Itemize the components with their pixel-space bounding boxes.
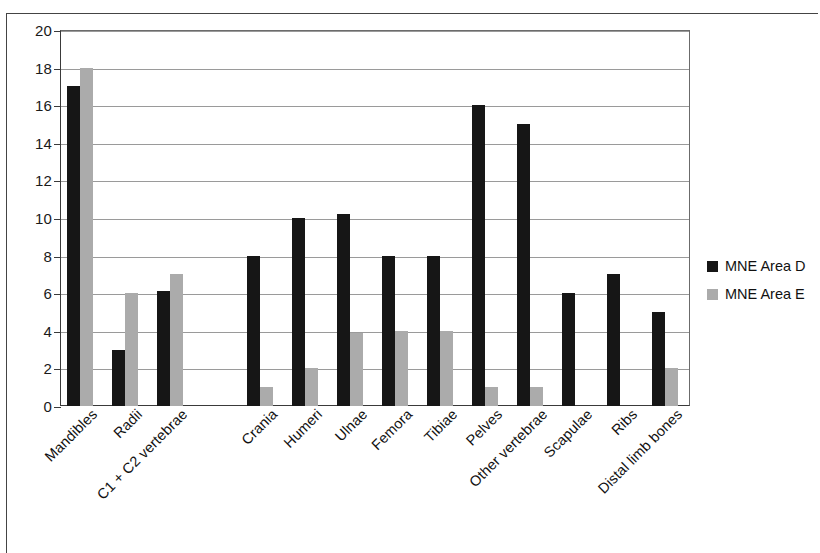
x-axis-label: Femora (368, 406, 415, 453)
x-axis-label: Mandibles (41, 406, 100, 465)
bar (652, 312, 665, 406)
x-axis-label: Distal limb bones (594, 406, 685, 497)
bar (80, 68, 93, 406)
bar-group (60, 30, 105, 406)
bar-group (240, 30, 285, 406)
bar (337, 214, 350, 406)
x-axis-label: Radii (110, 406, 145, 441)
bar-group (150, 30, 195, 406)
legend-item-mne-area-e: MNE Area E (707, 280, 820, 308)
x-axis-label: Scapulae (540, 406, 595, 461)
bar-group (195, 30, 240, 406)
bar-group (555, 30, 600, 406)
x-axis-label: Ribs (608, 406, 640, 438)
y-axis-tick-label: 0 (43, 398, 52, 415)
y-axis-tick-labels: 02468101214161820 (20, 30, 52, 406)
bar-group (600, 30, 645, 406)
y-axis-tick-label: 6 (43, 285, 52, 302)
bar (157, 291, 170, 406)
bars-layer (60, 30, 690, 406)
y-axis-tick-label: 2 (43, 360, 52, 377)
bar (472, 105, 485, 406)
x-axis-label: Pelves (462, 406, 505, 449)
x-axis-label: Tibiae (421, 406, 460, 445)
bar (67, 86, 80, 406)
bar (112, 350, 125, 406)
bar-group (330, 30, 375, 406)
bar (485, 387, 498, 406)
legend-label-mne-area-d: MNE Area D (725, 258, 806, 274)
bar (517, 124, 530, 406)
legend-item-mne-area-d: MNE Area D (707, 252, 820, 280)
bar (530, 387, 543, 406)
bar (125, 293, 138, 406)
bar (292, 218, 305, 406)
bar (350, 333, 363, 406)
bar (440, 331, 453, 406)
legend-label-mne-area-e: MNE Area E (725, 286, 805, 302)
bar-group (105, 30, 150, 406)
bar (665, 368, 678, 406)
chart-legend: MNE Area D MNE Area E (707, 252, 820, 308)
y-axis-tick-label: 16 (35, 97, 52, 114)
bar-group (510, 30, 555, 406)
y-axis-tick-label: 14 (35, 134, 52, 151)
bar (427, 256, 440, 406)
legend-swatch-gray-icon (707, 289, 718, 300)
x-axis-label: Humeri (280, 406, 325, 451)
bar (260, 387, 273, 406)
legend-swatch-black-icon (707, 261, 718, 272)
bar-group (375, 30, 420, 406)
y-axis-tick-label: 8 (43, 247, 52, 264)
x-axis-label: Ulnae (331, 406, 369, 444)
bar-group (420, 30, 465, 406)
y-axis-tick-label: 20 (35, 22, 52, 39)
y-axis-tick-label: 12 (35, 172, 52, 189)
bar-group (465, 30, 510, 406)
bar-group (285, 30, 330, 406)
y-axis-tick-label: 4 (43, 322, 52, 339)
x-axis-label: Crania (238, 406, 280, 448)
bar (305, 368, 318, 406)
bar (395, 331, 408, 406)
bar (170, 274, 183, 406)
bar (607, 274, 620, 406)
y-axis-tick-label: 18 (35, 59, 52, 76)
bar-group (645, 30, 690, 406)
x-axis-category-labels: MandiblesRadiiC1 + C2 vertebraeCraniaHum… (60, 406, 760, 540)
bar (382, 256, 395, 406)
bar (247, 256, 260, 406)
y-axis-tick-label: 10 (35, 210, 52, 227)
x-axis-label: Other vertebrae (466, 406, 550, 490)
bar (562, 293, 575, 406)
